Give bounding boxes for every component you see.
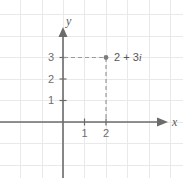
x-tick-label-1: 1 [82,128,88,139]
y-tick-label-2: 2 [48,74,54,85]
x-tick-label-2: 2 [103,128,109,139]
point-annotation-real: 2 + 3 [114,51,139,63]
chart-labels: y x 3 2 1 1 2 2 + 3i [0,0,183,178]
x-axis-label: x [172,116,177,128]
point-annotation-label: 2 + 3i [114,52,142,63]
complex-plane-chart: y x 3 2 1 1 2 2 + 3i [0,0,183,178]
y-tick-label-1: 1 [48,95,54,106]
y-axis-label: y [66,15,71,27]
y-tick-label-3: 3 [48,52,54,63]
point-annotation-imaginary-unit: i [139,51,142,63]
